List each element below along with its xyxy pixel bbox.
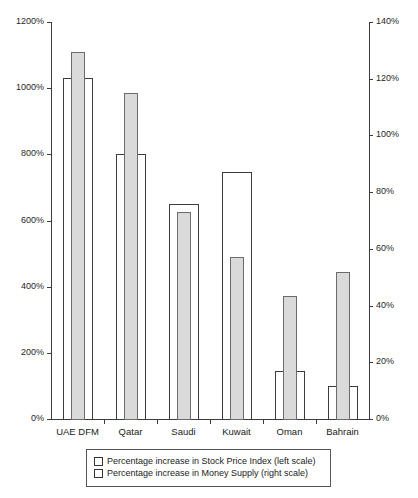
bar-money-supply	[283, 296, 297, 420]
right-axis-tick-label: 120%	[376, 74, 399, 83]
left-axis-tick-label: 800%	[0, 149, 44, 158]
x-axis-category-label: Bahrain	[316, 426, 369, 437]
left-tick-mark	[47, 88, 51, 89]
bar-money-supply	[336, 272, 350, 420]
right-tick-mark	[369, 192, 373, 193]
bar-money-supply	[177, 212, 191, 420]
left-tick-mark	[47, 353, 51, 354]
right-axis-tick-label: 60%	[376, 244, 394, 253]
left-axis-tick-label: 1200%	[0, 17, 44, 26]
bar-money-supply	[71, 52, 85, 420]
legend-label-stock-price-index: Percentage increase in Stock Price Index…	[107, 456, 316, 467]
right-axis-tick-label: 0%	[376, 414, 389, 423]
x-tick-mark	[210, 420, 211, 424]
x-tick-mark	[263, 420, 264, 424]
left-axis-tick-label: 200%	[0, 348, 44, 357]
bar-money-supply	[230, 257, 244, 420]
plot-area	[51, 22, 370, 420]
legend-label-money-supply: Percentage increase in Money Supply (rig…	[107, 468, 308, 479]
left-axis-tick-label: 400%	[0, 282, 44, 291]
right-axis-tick-label: 100%	[376, 130, 399, 139]
left-axis-tick-label: 0%	[0, 414, 44, 423]
right-axis-tick-label: 20%	[376, 357, 394, 366]
x-axis-category-label: UAE DFM	[51, 426, 104, 437]
right-tick-mark	[369, 135, 373, 136]
left-axis-line	[51, 22, 52, 420]
right-tick-mark	[369, 79, 373, 80]
x-tick-mark	[316, 420, 317, 424]
bar-money-supply	[124, 93, 138, 420]
right-axis-tick-label: 40%	[376, 301, 394, 310]
left-tick-mark	[47, 287, 51, 288]
chart-legend: Percentage increase in Stock Price Index…	[86, 449, 331, 487]
x-axis-category-label: Saudi	[157, 426, 210, 437]
left-tick-mark	[47, 154, 51, 155]
left-tick-mark	[47, 221, 51, 222]
right-tick-mark	[369, 362, 373, 363]
x-tick-mark	[104, 420, 105, 424]
x-tick-mark	[157, 420, 158, 424]
chart-figure: 0%200%400%600%800%1000%1200% 0%20%40%60%…	[0, 0, 418, 498]
x-axis-category-label: Oman	[263, 426, 316, 437]
right-axis-line	[369, 22, 370, 420]
legend-item-stock-price-index: Percentage increase in Stock Price Index…	[94, 456, 323, 467]
left-tick-mark	[47, 419, 51, 420]
legend-swatch-icon-stock-price-index	[94, 457, 103, 466]
legend-swatch-icon-money-supply	[94, 469, 103, 478]
right-tick-mark	[369, 249, 373, 250]
right-axis-tick-label: 80%	[376, 187, 394, 196]
left-axis-tick-label: 600%	[0, 216, 44, 225]
x-axis-category-label: Qatar	[104, 426, 157, 437]
right-axis-tick-label: 140%	[376, 17, 399, 26]
right-tick-mark	[369, 419, 373, 420]
x-axis-category-label: Kuwait	[210, 426, 263, 437]
left-tick-mark	[47, 22, 51, 23]
right-tick-mark	[369, 22, 373, 23]
left-axis-tick-label: 1000%	[0, 83, 44, 92]
right-tick-mark	[369, 306, 373, 307]
legend-item-money-supply: Percentage increase in Money Supply (rig…	[94, 468, 323, 479]
